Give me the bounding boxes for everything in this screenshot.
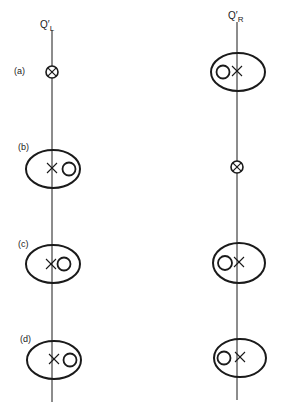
- diagram-canvas: Q′L Q′R (a) (b) (c) (d): [0, 0, 283, 409]
- left-axis-label-main: Q′: [40, 19, 50, 30]
- left-c-orbit-ellipse: [26, 245, 80, 283]
- left-d-circle-marker-icon: [64, 354, 77, 367]
- row-label-c: (c): [18, 240, 29, 249]
- right-axis-label-main: Q′: [228, 10, 238, 21]
- left-axis-label: Q′L: [40, 20, 54, 33]
- left-d-orbit-ellipse: [27, 341, 81, 379]
- row-label-d: (d): [20, 335, 31, 344]
- right-c-circle-marker-icon: [218, 256, 232, 270]
- left-axis-label-sub: L: [50, 24, 54, 33]
- right-axis-label: Q′R: [228, 11, 243, 24]
- right-a-circle-marker-icon: [217, 66, 230, 79]
- left-c-circle-marker-icon: [58, 258, 71, 271]
- right-c-orbit-ellipse: [213, 243, 265, 283]
- orbit-diagram: [0, 0, 283, 409]
- row-label-b: (b): [18, 143, 29, 152]
- row-label-a: (a): [14, 67, 25, 76]
- right-d-orbit-ellipse: [214, 339, 266, 377]
- left-b-circle-marker-icon: [63, 163, 76, 176]
- right-d-circle-marker-icon: [218, 352, 231, 365]
- right-axis-label-sub: R: [238, 15, 244, 24]
